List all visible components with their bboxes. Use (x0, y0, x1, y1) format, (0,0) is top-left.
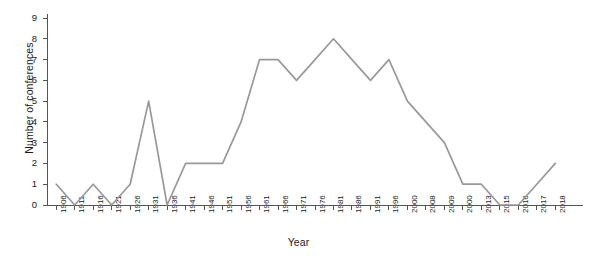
plot-area (0, 0, 597, 258)
line-chart: Number of conferences 0123456789 1906191… (0, 0, 597, 258)
x-axis-title: Year (0, 236, 597, 248)
